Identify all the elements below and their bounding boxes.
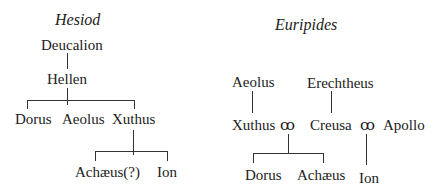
- line-marriage1-children: [253, 153, 323, 154]
- line-deucalion-hellen: [67, 53, 68, 69]
- line-hellen-children: [27, 100, 134, 101]
- node-ion: Ion: [157, 164, 177, 180]
- line-dorus: [27, 100, 28, 109]
- node-achaeus-q: Achæus(?): [75, 164, 140, 180]
- hesiod-title: Hesiod: [55, 12, 100, 28]
- line-ion: [167, 151, 168, 161]
- node-erechtheus: Erechtheus: [307, 75, 374, 91]
- marriage-symbol-2: ꝏ: [360, 117, 375, 133]
- node-dorus: Dorus: [15, 111, 52, 127]
- line-marriage2-ion: [366, 134, 367, 165]
- node-xuthus-e: Xuthus: [232, 117, 275, 133]
- node-aeolus-e: Aeolus: [232, 74, 275, 90]
- line-hellen-down: [67, 88, 68, 105]
- line-dorus-e: [253, 153, 254, 163]
- line-marriage1-down: [288, 134, 289, 154]
- node-dorus-e: Dorus: [245, 167, 282, 183]
- line-erechtheus-creusa: [331, 91, 332, 113]
- node-deucalion: Deucalion: [41, 37, 103, 53]
- line-aeolus: [134, 100, 135, 109]
- node-ion-e: Ion: [359, 170, 379, 186]
- node-aeolus: Aeolus: [62, 111, 105, 127]
- line-aeolus-xuthus: [252, 91, 253, 113]
- line-achaeus-e: [323, 153, 324, 163]
- node-apollo: Apollo: [383, 117, 425, 133]
- node-creusa: Creusa: [310, 117, 352, 133]
- marriage-symbol-1: ꝏ: [280, 117, 295, 133]
- node-xuthus: Xuthus: [112, 111, 155, 127]
- euripides-title: Euripides: [275, 17, 337, 33]
- line-xuthus-children: [95, 151, 167, 152]
- node-hellen: Hellen: [47, 71, 87, 87]
- line-achaeus: [95, 151, 96, 161]
- node-achaeus-e: Achæus: [297, 167, 345, 183]
